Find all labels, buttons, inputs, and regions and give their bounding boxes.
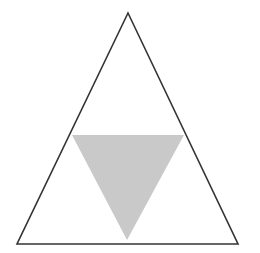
nested-triangles-diagram bbox=[0, 0, 260, 253]
